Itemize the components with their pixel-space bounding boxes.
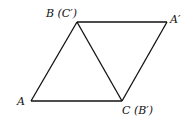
edge-b-c: [77, 22, 122, 101]
geometry-diagram: A B (C′) A′ C (B′): [0, 0, 189, 119]
label-b-c-prime: B (C′): [45, 7, 77, 20]
edge-a-prime-c: [122, 22, 167, 101]
label-a: A: [16, 95, 25, 108]
edge-a-b: [31, 22, 77, 101]
label-c-b-prime: C (B′): [122, 104, 153, 117]
label-a-prime: A′: [169, 13, 181, 26]
